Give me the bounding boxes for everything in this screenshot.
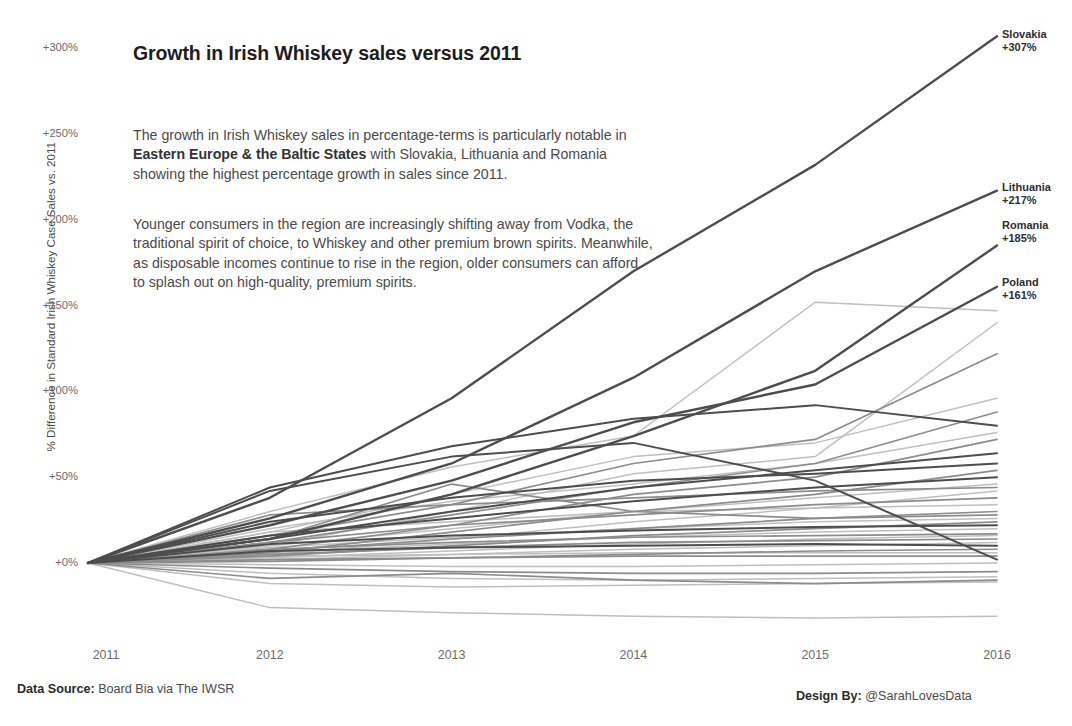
line-chart-plot [0,0,1072,726]
series-line [88,563,997,566]
series-line [88,563,997,580]
chart-canvas: Growth in Irish Whiskey sales versus 201… [0,0,1072,726]
series-line [88,246,997,563]
series-layer [88,36,997,618]
